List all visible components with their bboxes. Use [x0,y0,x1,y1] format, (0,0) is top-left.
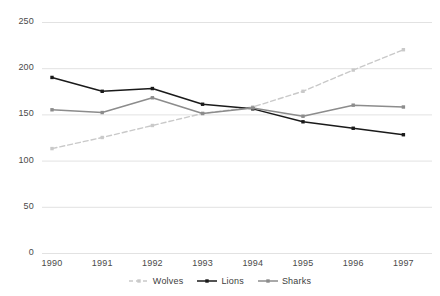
data-point-sharks-1995[interactable] [301,115,304,118]
data-point-sharks-1996[interactable] [352,103,355,106]
x-tick-label-1990: 1990 [30,258,74,268]
data-point-sharks-1997[interactable] [402,105,405,108]
x-tick-label-1997: 1997 [381,258,425,268]
data-point-sharks-1991[interactable] [101,111,104,114]
data-point-lions-1997[interactable] [402,133,405,136]
legend-marker [137,279,140,282]
legend-swatch-sharks-icon [258,276,278,286]
legend-item-sharks[interactable]: Sharks [258,276,311,286]
data-point-lions-1995[interactable] [301,120,304,123]
y-tick-label-250: 250 [0,16,34,26]
legend-item-lions[interactable]: Lions [197,276,244,286]
data-point-wolves-1997[interactable] [402,48,405,51]
legend-label-wolves: Wolves [153,276,184,286]
legend-label-sharks: Sharks [282,276,311,286]
data-point-sharks-1993[interactable] [201,112,204,115]
legend-swatch-lions-icon [197,276,217,286]
series-wolves [50,48,405,150]
data-point-wolves-1996[interactable] [352,68,355,71]
series-line-wolves [52,50,403,149]
y-tick-label-100: 100 [0,155,34,165]
legend-swatch-wolves-icon [129,276,149,286]
data-point-sharks-1992[interactable] [151,96,154,99]
data-point-wolves-1990[interactable] [50,147,53,150]
x-tick-label-1992: 1992 [130,258,174,268]
data-point-sharks-1994[interactable] [251,106,254,109]
plot-area [0,0,440,296]
x-tick-label-1996: 1996 [331,258,375,268]
data-point-lions-1992[interactable] [151,87,154,90]
data-point-wolves-1995[interactable] [301,90,304,93]
y-tick-label-200: 200 [0,62,34,72]
legend-marker [206,279,209,282]
legend-marker [266,279,269,282]
legend-item-wolves[interactable]: Wolves [129,276,184,286]
y-tick-label-0: 0 [0,247,34,257]
data-point-sharks-1990[interactable] [50,108,53,111]
data-point-lions-1996[interactable] [352,127,355,130]
x-tick-label-1995: 1995 [281,258,325,268]
x-tick-label-1993: 1993 [181,258,225,268]
data-point-lions-1991[interactable] [101,90,104,93]
x-tick-label-1991: 1991 [80,258,124,268]
legend-label-lions: Lions [221,276,244,286]
y-tick-label-150: 150 [0,108,34,118]
data-point-wolves-1992[interactable] [151,124,154,127]
line-chart: 050100150200250 199019911992199319941995… [0,0,440,296]
data-point-wolves-1991[interactable] [101,136,104,139]
x-tick-label-1994: 1994 [231,258,275,268]
chart-legend: WolvesLionsSharks [0,276,440,286]
data-point-lions-1993[interactable] [201,103,204,106]
data-point-lions-1990[interactable] [50,76,53,79]
y-tick-label-50: 50 [0,201,34,211]
